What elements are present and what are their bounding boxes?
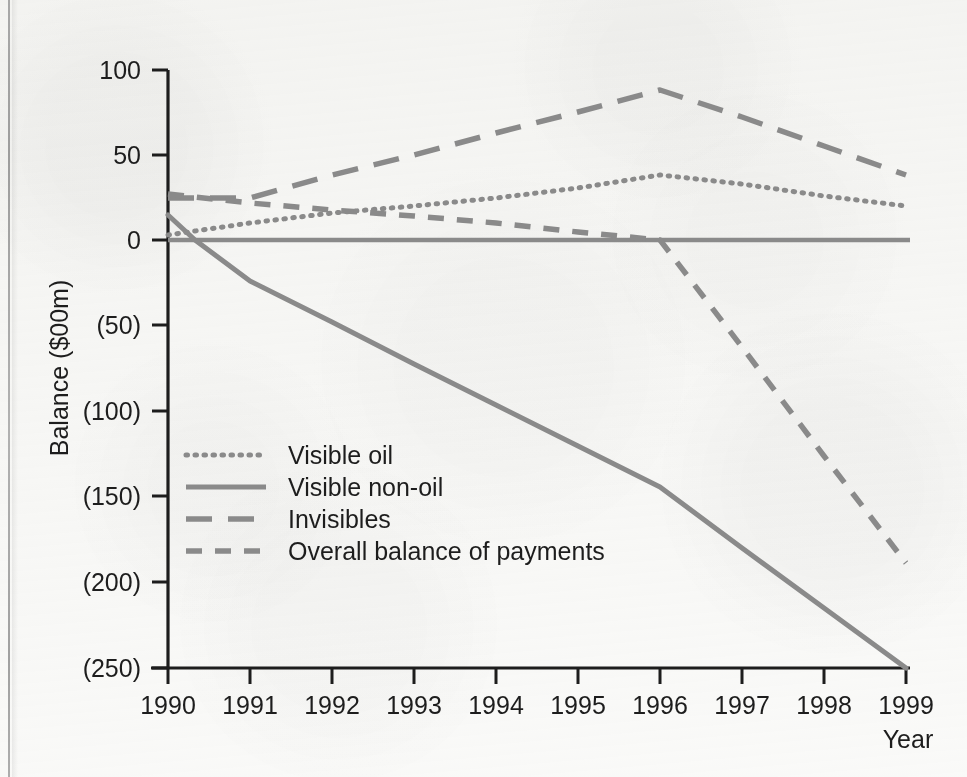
balance-of-payments-line-chart: 100 50 0 (50) (100) (150) (200) (250) 19…: [0, 0, 967, 777]
x-tick-label: 1997: [714, 691, 770, 719]
y-tick-label: (50): [97, 311, 141, 339]
y-tick-label: (200): [83, 568, 141, 596]
series-line-invisibles: [168, 90, 906, 198]
x-axis-tick-labels: 1990 1991 1992 1993 1994 1995 1996 1997 …: [140, 691, 934, 719]
x-tick-label: 1992: [304, 691, 360, 719]
x-tick-label: 1990: [140, 691, 196, 719]
y-tick-label: (250): [83, 654, 141, 682]
x-tick-label: 1994: [468, 691, 524, 719]
x-axis-title: Year: [883, 725, 934, 753]
x-axis-ticks: [168, 668, 906, 684]
y-tick-label: (100): [83, 397, 141, 425]
series-line-overall-balance-of-payments: [168, 194, 906, 563]
x-tick-label: 1998: [796, 691, 852, 719]
legend-label: Invisibles: [288, 505, 391, 533]
legend-label: Visible non-oil: [288, 473, 443, 501]
y-axis-tick-labels: 100 50 0 (50) (100) (150) (200) (250): [83, 56, 141, 682]
scanned-page: 100 50 0 (50) (100) (150) (200) (250) 19…: [0, 0, 967, 777]
legend-item-overall-balance-of-payments[interactable]: Overall balance of payments: [186, 537, 605, 565]
y-tick-label: 0: [127, 226, 141, 254]
y-axis-ticks: [152, 70, 168, 668]
series-line-visible-oil: [168, 175, 906, 235]
y-tick-label: 100: [99, 56, 141, 84]
y-tick-label: 50: [113, 141, 141, 169]
legend-item-visible-oil[interactable]: Visible oil: [186, 441, 393, 469]
x-tick-label: 1999: [878, 691, 934, 719]
legend-item-invisibles[interactable]: Invisibles: [186, 505, 391, 533]
legend-item-visible-non-oil[interactable]: Visible non-oil: [186, 473, 443, 501]
y-tick-label: (150): [83, 482, 141, 510]
x-tick-label: 1993: [386, 691, 442, 719]
legend-label: Overall balance of payments: [288, 537, 605, 565]
legend-label: Visible oil: [288, 441, 393, 469]
series-line-visible-non-oil: [168, 215, 906, 668]
chart-legend: Visible oil Visible non-oil Invisibles O…: [186, 441, 605, 565]
x-tick-label: 1996: [632, 691, 688, 719]
y-axis-title: Balance ($00m): [45, 280, 73, 456]
x-tick-label: 1991: [222, 691, 278, 719]
x-tick-label: 1995: [550, 691, 606, 719]
